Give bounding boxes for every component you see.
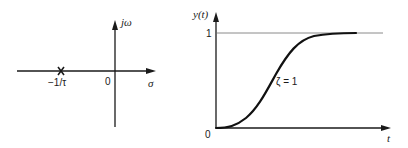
y-axis-arrow-icon <box>213 12 219 22</box>
jw-axis-label: jω <box>121 16 132 28</box>
y-axis-label: y(t) <box>193 8 208 20</box>
curve-label-zeta: ζ = 1 <box>276 76 297 88</box>
steady-state-label: 1 <box>206 28 212 40</box>
t-axis-label: t <box>387 132 390 144</box>
pole-plot <box>17 20 156 127</box>
diagram-canvas <box>0 0 408 148</box>
origin-label-left: 0 <box>105 76 111 88</box>
origin-label-right: 0 <box>205 129 211 141</box>
response-plot <box>213 12 391 131</box>
pole-label: −1/τ <box>48 77 66 89</box>
sigma-axis-label: σ <box>148 77 153 89</box>
t-axis-arrow-icon <box>381 125 391 131</box>
jw-axis-arrow-icon <box>112 20 118 30</box>
sigma-axis-arrow-icon <box>146 68 156 74</box>
